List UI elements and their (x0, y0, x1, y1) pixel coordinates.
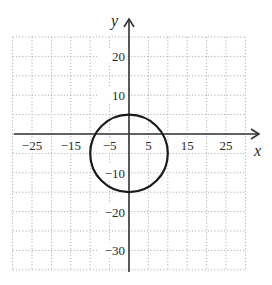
x-tick-label: −15 (61, 138, 81, 153)
x-axis-label: x (253, 142, 261, 159)
x-tick-label: −5 (103, 138, 117, 153)
y-tick-label: −10 (105, 166, 125, 181)
x-tick-label: 15 (181, 138, 194, 153)
y-tick-label: −30 (105, 243, 125, 258)
circle-graph: x y −25−15−551525 2010−10−20−30 (0, 0, 272, 285)
y-tick-label: −20 (105, 205, 125, 220)
y-tick-label: 20 (112, 49, 125, 64)
x-tick-label: 5 (145, 138, 152, 153)
x-tick-label: 25 (220, 138, 233, 153)
y-axis-label: y (109, 12, 119, 30)
y-tick-label: 10 (112, 88, 125, 103)
x-tick-label: −25 (22, 138, 42, 153)
